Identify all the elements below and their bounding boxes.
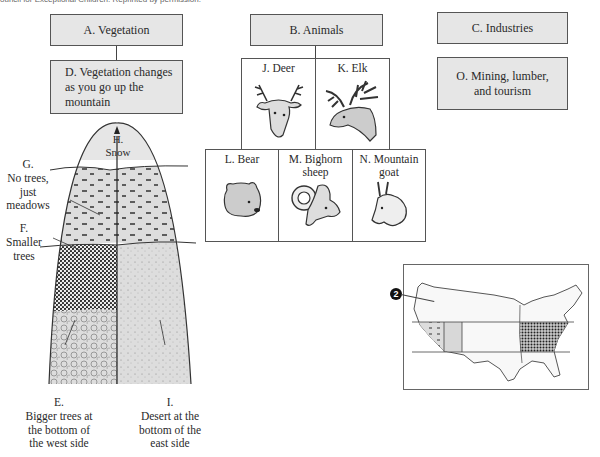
- animals-box: B. Animals: [250, 14, 383, 46]
- industries-box: C. Industries: [437, 12, 568, 44]
- connector-line: [315, 46, 316, 58]
- animal-card-mountain-goat: N. Mountain goat: [352, 149, 426, 242]
- animal-card-bighorn-sheep: M. Bighorn sheep: [278, 149, 353, 242]
- industries-detail-box: O. Mining, lumber, and tourism: [437, 57, 568, 110]
- animal-label: N. Mountain goat: [353, 153, 425, 179]
- animal-label: K. Elk: [316, 62, 389, 75]
- animal-card-deer: J. Deer: [241, 58, 316, 150]
- us-map-frame: [403, 264, 589, 390]
- animal-card-elk: K. Elk: [315, 58, 390, 150]
- animals-label: B. Animals: [289, 23, 343, 38]
- bighorn-sheep-icon: [288, 180, 344, 232]
- zone-label-smaller-trees: F. Smaller trees: [0, 222, 48, 263]
- elk-icon: [320, 77, 386, 145]
- zone-label-desert: I. Desert at the bottom of the east side: [120, 396, 220, 451]
- industries-detail: O. Mining, lumber, and tourism: [453, 69, 553, 99]
- mountain-goat-icon: [364, 180, 414, 232]
- us-map: [404, 265, 588, 389]
- animal-label: M. Bighorn sheep: [279, 153, 352, 179]
- zone-label-meadows: G. No trees, just meadows: [0, 158, 56, 213]
- zone-label-snow: H. Snow: [103, 133, 133, 159]
- industries-label: C. Industries: [472, 21, 533, 36]
- deer-icon: [249, 79, 309, 145]
- animal-label: J. Deer: [242, 62, 315, 75]
- zone-label-bigger-trees: E. Bigger trees at the bottom of the wes…: [5, 396, 113, 451]
